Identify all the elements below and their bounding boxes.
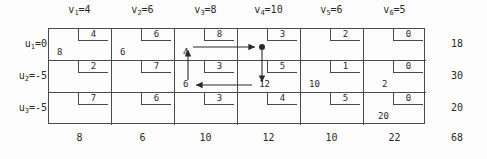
cell-r2c6[interactable]: 0 2 xyxy=(364,61,426,92)
alloc-r3c6: 20 xyxy=(378,111,389,122)
cost-r3c6: 0 xyxy=(393,93,423,105)
cell-r2c2[interactable]: 7 xyxy=(112,61,174,92)
col-head-eq-1: =4 xyxy=(79,4,91,15)
cell-r3c4[interactable]: 4 xyxy=(238,93,300,124)
demand-col-1: 8 xyxy=(48,132,111,143)
cost-r2c3: 3 xyxy=(204,61,234,73)
column-header-v1: v1=4 xyxy=(48,4,111,17)
cell-r1c4[interactable]: 3 xyxy=(238,29,300,60)
supply-row-3: 20 xyxy=(440,102,474,113)
cost-r1c4: 3 xyxy=(267,29,297,41)
cost-r2c6: 0 xyxy=(393,61,423,73)
cost-r1c6: 0 xyxy=(393,29,423,41)
row-head-eq-3: =-5 xyxy=(29,102,47,113)
row-head-eq-1: =0 xyxy=(35,38,47,49)
col-head-eq-6: =5 xyxy=(394,4,406,15)
cell-r2c1[interactable]: 2 xyxy=(49,61,111,92)
tableau-grid: 4 8 6 6 8 4 3 2 0 2 7 xyxy=(48,28,425,124)
alloc-r2c4: 12 xyxy=(259,79,270,90)
row-header-u3: u3=-5 xyxy=(0,102,47,115)
cost-r2c4: 5 xyxy=(267,61,297,73)
alloc-r1c2: 6 xyxy=(120,47,125,58)
column-header-v2: v2=6 xyxy=(111,4,174,17)
cell-r1c6[interactable]: 0 xyxy=(364,29,426,60)
demand-col-6: 22 xyxy=(363,132,426,143)
cell-r2c3[interactable]: 3 6 xyxy=(175,61,237,92)
alloc-r2c3: 6 xyxy=(183,79,188,90)
row-head-eq-2: =-5 xyxy=(29,70,47,81)
col-head-eq-3: =8 xyxy=(205,4,217,15)
cost-r2c1: 2 xyxy=(78,61,108,73)
cell-r3c1[interactable]: 7 xyxy=(49,93,111,124)
cell-r2c4[interactable]: 5 12 xyxy=(238,61,300,92)
demand-col-4: 12 xyxy=(237,132,300,143)
cell-r3c3[interactable]: 3 xyxy=(175,93,237,124)
cost-r3c2: 6 xyxy=(141,93,171,105)
demand-col-3: 10 xyxy=(174,132,237,143)
alloc-r2c6: 2 xyxy=(382,79,387,90)
column-header-v4: v4=10 xyxy=(237,4,300,17)
cell-r3c6[interactable]: 0 20 xyxy=(364,93,426,124)
alloc-r1c1: 8 xyxy=(57,47,62,58)
cost-r1c2: 6 xyxy=(141,29,171,41)
cost-r3c5: 5 xyxy=(330,93,360,105)
cost-r3c4: 4 xyxy=(267,93,297,105)
cell-r1c2[interactable]: 6 6 xyxy=(112,29,174,60)
grand-total: 68 xyxy=(440,132,474,143)
cell-r3c2[interactable]: 6 xyxy=(112,93,174,124)
cost-r2c2: 7 xyxy=(141,61,171,73)
transportation-tableau: v1=4 v2=6 v3=8 v4=10 v5=6 v6=5 u1=0 u2=-… xyxy=(0,0,487,159)
cost-r1c1: 4 xyxy=(78,29,108,41)
cost-r3c3: 3 xyxy=(204,93,234,105)
col-head-eq-2: =6 xyxy=(142,4,154,15)
alloc-r2c5: 10 xyxy=(309,79,320,90)
cost-r1c3: 8 xyxy=(204,29,234,41)
row-header-u2: u2=-5 xyxy=(0,70,47,83)
column-header-v3: v3=8 xyxy=(174,4,237,17)
cell-r1c3[interactable]: 8 4 xyxy=(175,29,237,60)
demand-col-2: 6 xyxy=(111,132,174,143)
col-head-eq-5: =6 xyxy=(331,4,343,15)
supply-row-1: 18 xyxy=(440,38,474,49)
col-head-eq-4: =10 xyxy=(265,4,283,15)
row-header-u1: u1=0 xyxy=(0,38,47,51)
alloc-r1c3: 4 xyxy=(183,47,188,58)
cell-r1c5[interactable]: 2 xyxy=(301,29,363,60)
cost-r1c5: 2 xyxy=(330,29,360,41)
cell-r1c1[interactable]: 4 8 xyxy=(49,29,111,60)
column-header-v6: v6=5 xyxy=(363,4,426,17)
supply-row-2: 30 xyxy=(440,70,474,81)
cell-r3c5[interactable]: 5 xyxy=(301,93,363,124)
cost-r2c5: 1 xyxy=(330,61,360,73)
column-header-v5: v5=6 xyxy=(300,4,363,17)
cell-r2c5[interactable]: 1 10 xyxy=(301,61,363,92)
cost-r3c1: 7 xyxy=(78,93,108,105)
demand-col-5: 10 xyxy=(300,132,363,143)
